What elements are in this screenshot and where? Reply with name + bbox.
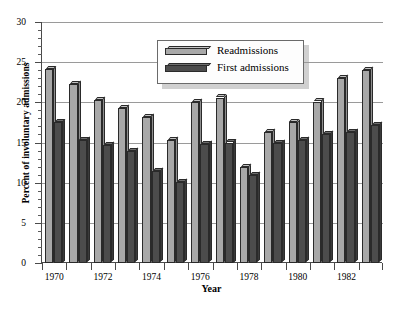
bar-first <box>79 140 87 263</box>
bar-chart-figure: Percent of involuntary admissions 051015… <box>0 0 398 316</box>
y-tick-label: 10 <box>17 178 27 188</box>
bar-group <box>91 22 115 263</box>
y-tick-major: 15 <box>35 143 42 144</box>
bar-read <box>94 100 102 263</box>
bar-read <box>289 122 297 263</box>
x-tick-label: 1982 <box>337 272 356 282</box>
x-tick <box>237 263 238 270</box>
x-tick <box>310 263 311 270</box>
y-tick-label: 30 <box>17 17 27 27</box>
bar-first <box>322 134 330 263</box>
x-tick <box>213 263 214 270</box>
y-tick-major: 5 <box>35 223 42 224</box>
bar-first <box>225 143 233 264</box>
bar-read <box>142 117 150 263</box>
bar-first <box>200 144 208 263</box>
bar-group <box>334 22 358 263</box>
x-tick-label: 1978 <box>240 272 259 282</box>
x-tick <box>66 263 67 270</box>
y-tick-major: 20 <box>35 102 42 103</box>
bar-read <box>216 98 224 263</box>
bar-group <box>66 22 90 263</box>
bar-group <box>310 22 334 263</box>
x-tick <box>382 263 383 270</box>
x-tick-label: 1972 <box>93 272 112 282</box>
y-tick-label: 5 <box>21 218 26 228</box>
x-axis-title: Year <box>41 283 382 294</box>
y-tick-major: 10 <box>35 183 42 184</box>
y-tick-label: 15 <box>17 138 27 148</box>
x-tick <box>286 263 287 270</box>
bar-read <box>337 78 345 263</box>
x-tick <box>188 263 189 270</box>
legend: Readmissions First admissions <box>157 40 304 84</box>
x-tick <box>115 263 116 270</box>
legend-label-first-admissions: First admissions <box>217 61 289 73</box>
bar-first <box>273 143 281 263</box>
bar-read <box>69 84 77 263</box>
bar-first <box>127 151 135 263</box>
x-tick-label: 1970 <box>45 272 64 282</box>
bar-group <box>359 22 383 263</box>
y-tick-major: 30 <box>35 22 42 23</box>
bar-group <box>115 22 139 263</box>
legend-swatch-readmissions <box>165 48 207 55</box>
legend-label-readmissions: Readmissions <box>217 44 278 56</box>
bar-first <box>298 140 306 263</box>
legend-swatch-first-admissions <box>165 65 207 72</box>
bar-group <box>42 22 66 263</box>
x-tick <box>359 263 360 270</box>
y-tick-label: 25 <box>17 57 27 67</box>
y-tick-major: 25 <box>35 62 42 63</box>
bar-read <box>45 69 53 263</box>
bar-read <box>240 167 248 263</box>
x-tick-label: 1974 <box>142 272 161 282</box>
bar-read <box>362 70 370 263</box>
x-tick-label: 1976 <box>191 272 210 282</box>
x-tick <box>91 263 92 270</box>
x-tick-label: 1980 <box>288 272 307 282</box>
bar-read <box>191 102 199 263</box>
bar-first <box>176 182 184 263</box>
bar-first <box>152 171 160 263</box>
x-tick <box>139 263 140 270</box>
x-tick <box>334 263 335 270</box>
y-tick-label: 20 <box>17 97 27 107</box>
x-tick <box>164 263 165 270</box>
bar-first <box>346 132 354 263</box>
bar-first <box>103 145 111 263</box>
bar-first <box>54 122 62 263</box>
bar-first <box>371 125 379 263</box>
bar-first <box>249 175 257 263</box>
bar-read <box>313 102 321 263</box>
y-tick-major: 0 <box>35 263 42 264</box>
x-tick <box>42 263 43 270</box>
x-tick <box>261 263 262 270</box>
bar-read <box>167 140 175 263</box>
y-tick-label: 0 <box>21 258 26 268</box>
bar-read <box>118 108 126 263</box>
bar-read <box>264 132 272 263</box>
